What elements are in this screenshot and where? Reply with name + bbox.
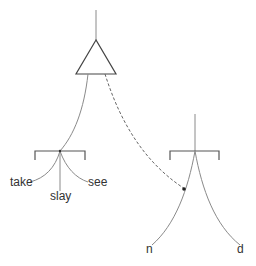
leaf-take: take: [10, 176, 33, 188]
leaf-slay: slay: [50, 190, 71, 202]
dashed-movement-edge: [105, 74, 185, 189]
landing-dot: [182, 187, 186, 191]
leaf-see: see: [88, 176, 107, 188]
left-junction-dot: [59, 150, 61, 152]
triangle-to-left-bracket-edge: [60, 74, 88, 151]
tree-diagram: [0, 0, 256, 266]
leaf-d: d: [237, 243, 244, 255]
edge-to-d: [195, 151, 240, 245]
triangle-node: [76, 40, 116, 74]
edge-to-see: [60, 151, 88, 182]
edge-to-n: [152, 151, 195, 245]
leaf-n: n: [146, 243, 153, 255]
